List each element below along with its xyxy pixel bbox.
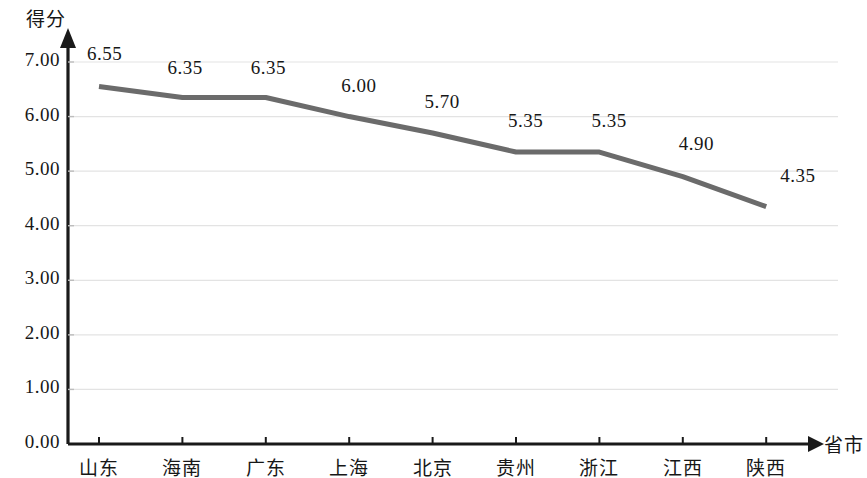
data-point-label-8: 4.35 — [780, 165, 815, 187]
x-tick-label-3: 上海 — [304, 453, 394, 478]
x-axis-arrow — [808, 436, 824, 452]
y-tick-label: 2.00 — [2, 322, 60, 344]
line-chart: 7.006.005.004.003.002.001.000.00 山东海南广东上… — [0, 0, 867, 478]
data-point-label-1: 6.35 — [167, 57, 202, 79]
x-tick-label-7: 江西 — [638, 453, 728, 478]
data-point-label-5: 5.35 — [508, 110, 543, 132]
y-axis-title: 得分 — [26, 4, 66, 31]
x-tick-label-8: 陕西 — [721, 453, 811, 478]
x-tick-label-2: 广东 — [221, 453, 311, 478]
data-point-label-2: 6.35 — [251, 57, 286, 79]
y-tick-label: 1.00 — [2, 376, 60, 398]
x-tick-label-1: 海南 — [137, 453, 227, 478]
y-axis-arrow — [60, 28, 76, 48]
data-point-label-3: 6.00 — [341, 75, 376, 97]
y-tick-label: 7.00 — [2, 49, 60, 71]
y-tick-label: 4.00 — [2, 213, 60, 235]
y-tick-label: 0.00 — [2, 431, 60, 453]
chart-canvas — [0, 0, 867, 478]
x-tick-label-5: 贵州 — [471, 453, 561, 478]
data-point-label-0: 6.55 — [87, 43, 122, 65]
x-tick-label-6: 浙江 — [554, 453, 644, 478]
y-tick-label: 3.00 — [2, 267, 60, 289]
y-tick-label: 5.00 — [2, 158, 60, 180]
x-tick-label-4: 北京 — [388, 453, 478, 478]
y-tick-label: 6.00 — [2, 104, 60, 126]
x-axis-title: 省市 — [824, 430, 864, 457]
data-point-label-4: 5.70 — [425, 91, 460, 113]
data-point-label-7: 4.90 — [679, 133, 714, 155]
x-tick-label-0: 山东 — [54, 453, 144, 478]
data-point-label-6: 5.35 — [591, 110, 626, 132]
